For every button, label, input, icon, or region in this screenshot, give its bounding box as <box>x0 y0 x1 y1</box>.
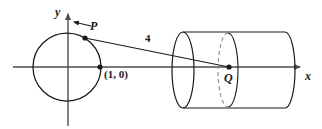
geometry-diagram: y x P Q 4 (1, 0) <box>0 0 322 129</box>
cylinder-cross-section-back <box>218 33 228 107</box>
segment-p-to-q <box>85 38 229 67</box>
p-leader-arrow <box>74 22 91 26</box>
x-axis-label: x <box>305 70 311 82</box>
segment-length-label: 4 <box>145 33 151 44</box>
cylinder-cross-section-front <box>228 33 238 107</box>
point-one-zero-dot <box>97 64 102 69</box>
point-P-dot <box>82 35 87 40</box>
diagram-canvas <box>0 0 322 129</box>
cylinder <box>172 32 295 108</box>
point-Q-dot <box>226 64 231 69</box>
point-label-q: Q <box>224 72 233 84</box>
cylinder-left-cap <box>172 32 194 108</box>
y-axis-label: y <box>55 6 60 18</box>
cylinder-right-cap <box>285 32 295 108</box>
point-label-one-zero: (1, 0) <box>104 69 128 80</box>
point-label-p: P <box>90 20 97 32</box>
